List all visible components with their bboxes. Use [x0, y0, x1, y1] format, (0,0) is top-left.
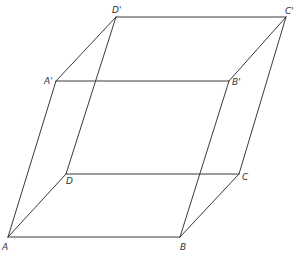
vertex-label-d: D — [66, 176, 73, 186]
labels-group: A B C D A' B' C' D' — [1, 5, 294, 252]
vertex-label-a-prime: A' — [43, 76, 53, 86]
edge-d-a — [8, 174, 66, 237]
vertex-label-c-prime: C' — [285, 6, 294, 16]
vertex-label-d-prime: D' — [112, 5, 121, 15]
edge-c-c1 — [239, 17, 286, 174]
edge-d1-a1 — [56, 17, 116, 81]
vertex-label-a: A — [1, 242, 8, 252]
edge-d-d1 — [66, 17, 116, 174]
edge-a-a1 — [8, 81, 56, 237]
vertex-label-c: C — [242, 172, 249, 182]
vertex-label-b-prime: B' — [232, 77, 241, 87]
edge-b-c — [180, 174, 239, 237]
parallelepiped-diagram: A B C D A' B' C' D' — [0, 0, 301, 257]
vertex-label-b: B — [180, 242, 186, 252]
edges-group — [8, 17, 286, 237]
edge-b-b1 — [180, 81, 229, 237]
edge-b1-c1 — [229, 17, 286, 81]
